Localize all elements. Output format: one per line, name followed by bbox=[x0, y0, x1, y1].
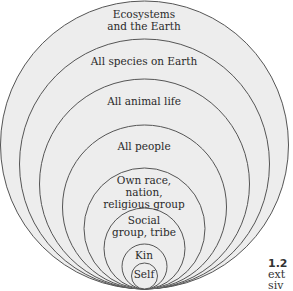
label-line: Self bbox=[134, 268, 155, 280]
label-line: All animal life bbox=[107, 95, 181, 107]
label-self: Self bbox=[134, 268, 155, 280]
label-line: and the Earth bbox=[107, 20, 181, 32]
label-line: nation, bbox=[103, 186, 184, 198]
label-ecosystems: Ecosystems and the Earth bbox=[107, 8, 181, 32]
label-line: Own race, bbox=[103, 174, 184, 186]
label-line: group, tribe bbox=[112, 226, 176, 238]
caption-text-line: siv bbox=[268, 280, 288, 291]
label-line: religious group bbox=[103, 198, 184, 210]
label-social-group: Social group, tribe bbox=[112, 214, 176, 238]
label-all-species: All species on Earth bbox=[91, 55, 198, 67]
label-line: All species on Earth bbox=[91, 55, 198, 67]
label-kin: Kin bbox=[135, 249, 153, 261]
label-line: Ecosystems bbox=[107, 8, 181, 20]
label-line: Kin bbox=[135, 249, 153, 261]
label-animal-life: All animal life bbox=[107, 95, 181, 107]
label-line: All people bbox=[117, 140, 170, 152]
label-line: Social bbox=[112, 214, 176, 226]
figure-caption: 1.2 ext siv bbox=[268, 258, 288, 291]
label-own-race: Own race, nation, religious group bbox=[103, 174, 184, 210]
label-all-people: All people bbox=[117, 140, 170, 152]
